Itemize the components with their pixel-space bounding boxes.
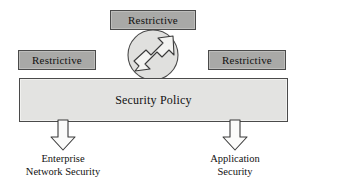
output-label-line-1: Application [180,153,290,166]
security-policy-box: Security Policy [19,78,288,122]
output-label-line-2: Network Security [3,166,123,179]
restrictive-box-right-label: Restrictive [222,54,272,66]
output-label-enterprise-network-security: Enterprise Network Security [3,153,123,178]
security-policy-diagram: Restrictive Restrictive Restrictive Secu… [0,0,357,187]
restrictive-box-left: Restrictive [18,50,96,70]
output-label-application-security: Application Security [180,153,290,178]
output-label-line-1: Enterprise [3,153,123,166]
down-arrow-icon-application [220,120,250,152]
restrictive-box-top-label: Restrictive [128,14,178,26]
down-arrow-shape [51,120,75,150]
down-arrow-icon-enterprise [48,120,78,152]
security-policy-label: Security Policy [115,93,192,108]
restrictive-box-top: Restrictive [110,10,196,30]
circular-double-arrow-icon [113,28,193,80]
output-label-line-2: Security [180,166,290,179]
restrictive-box-left-label: Restrictive [32,54,82,66]
down-arrow-shape [223,120,247,150]
restrictive-box-right: Restrictive [208,50,286,70]
